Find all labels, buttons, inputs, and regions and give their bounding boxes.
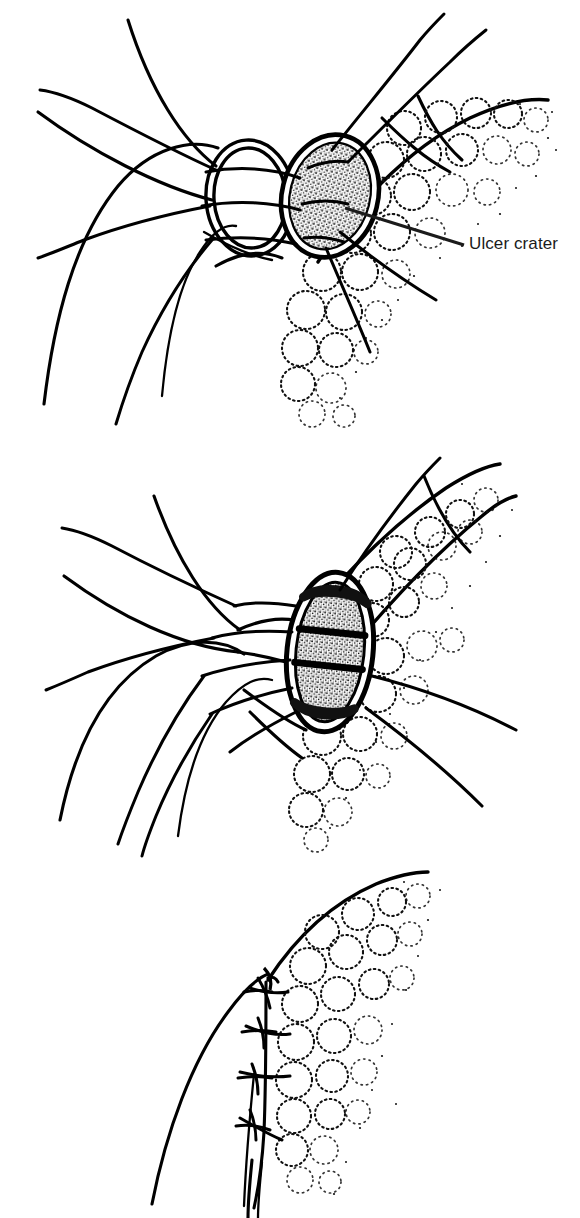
ulcer-crater-label: Ulcer crater [469,234,558,254]
panel-completed-repair-tied-sutures [0,860,580,1218]
figure-root: .lobule { fill:none; stroke:#111; stroke… [0,0,580,1218]
panel-2-drawing [0,440,580,860]
panel-omental-patch-drawn-over [0,440,580,860]
panel-3-drawing [0,860,580,1218]
panel-1-drawing: .lobule { fill:none; stroke:#111; stroke… [0,0,580,440]
panel-perforation-with-sutures: .lobule { fill:none; stroke:#111; stroke… [0,0,580,440]
